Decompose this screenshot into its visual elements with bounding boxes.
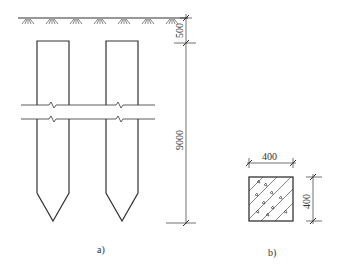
pile-diagram: 500 9000 a) 400 400 b bbox=[0, 0, 341, 270]
dimension-width-label: 400 bbox=[262, 151, 277, 162]
caption-b: b) bbox=[268, 247, 276, 259]
caption-a: a) bbox=[97, 244, 105, 256]
dimension-9000-label: 9000 bbox=[174, 130, 185, 150]
dimension-500-label: 500 bbox=[174, 23, 185, 38]
vertical-dimension bbox=[166, 14, 196, 226]
pile-cross-section bbox=[249, 177, 293, 221]
ground-surface bbox=[18, 18, 188, 24]
dimension-height-label: 400 bbox=[301, 194, 312, 209]
right-pile bbox=[106, 41, 138, 221]
left-pile bbox=[37, 41, 69, 221]
break-lines bbox=[21, 102, 155, 122]
